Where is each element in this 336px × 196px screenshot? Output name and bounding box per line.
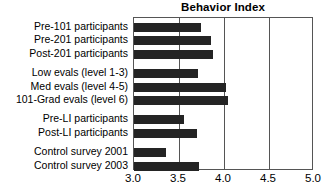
behavior-index-chart: Behavior Index Pre-101 participantsPre-2… — [0, 0, 336, 196]
bar — [134, 23, 201, 32]
category-label: Control survey 2003 — [34, 160, 128, 171]
x-tick-label: 3.0 — [113, 172, 153, 185]
bar — [134, 50, 213, 59]
bars-layer — [134, 18, 312, 169]
x-tick-label: 5.0 — [293, 172, 333, 185]
category-label: Low evals (level 1-3) — [32, 67, 128, 78]
bar — [134, 36, 211, 45]
bar — [134, 115, 184, 124]
category-labels: Pre-101 participantsPre-201 participants… — [0, 17, 131, 170]
plot-area — [133, 17, 313, 170]
category-label: Pre-LI participants — [43, 113, 128, 124]
bar — [134, 162, 199, 171]
x-axis-tick-labels: 3.03.54.04.55.0 — [133, 172, 313, 188]
chart-title: Behavior Index — [133, 1, 313, 14]
category-label: Control survey 2001 — [34, 146, 128, 157]
category-label: Post-LI participants — [38, 127, 128, 138]
bar — [134, 129, 197, 138]
category-label: Pre-201 participants — [34, 34, 128, 45]
category-label: Post-201 participants — [29, 48, 128, 59]
x-tick-label: 3.5 — [158, 172, 198, 185]
bar — [134, 83, 226, 92]
bar — [134, 69, 198, 78]
bar — [134, 96, 228, 105]
x-tick-label: 4.0 — [203, 172, 243, 185]
category-label: Med evals (level 4-5) — [31, 81, 128, 92]
x-tick-label: 4.5 — [248, 172, 288, 185]
category-label: Pre-101 participants — [34, 21, 128, 32]
category-label: 101-Grad evals (level 6) — [16, 94, 128, 105]
bar — [134, 148, 166, 157]
